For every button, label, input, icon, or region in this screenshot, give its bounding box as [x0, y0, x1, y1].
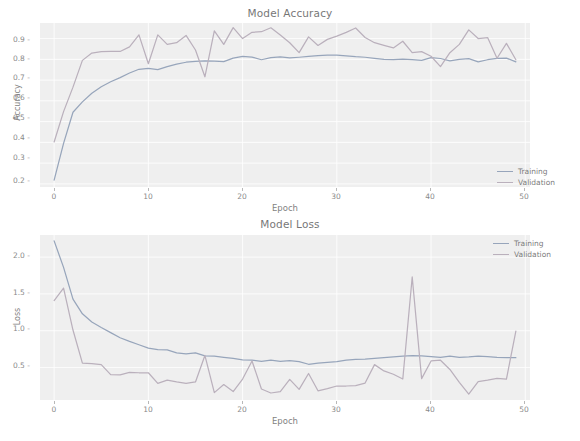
accuracy-xtick-3: 30: [325, 192, 347, 201]
accuracy-xtick-1: 10: [137, 192, 159, 201]
accuracy-ytick-5: 0.4 -: [4, 133, 30, 142]
loss-xtick-4: 40: [419, 405, 441, 414]
accuracy-subplot: Model Accuracy Accuracy 0.9 - 0.8 - 0.7 …: [0, 0, 580, 218]
loss-x-axis-label: Epoch: [40, 416, 530, 426]
accuracy-xtick-5: 50: [513, 192, 535, 201]
loss-ytick-0: 2.0 -: [4, 251, 30, 260]
validation-line-swatch-icon: [493, 254, 509, 255]
accuracy-legend-item-training[interactable]: Training: [497, 166, 555, 177]
accuracy-xtickmark-3: [336, 188, 337, 191]
loss-legend-training-label: Training: [514, 238, 544, 249]
loss-ytick-3: 0.5 -: [4, 361, 30, 370]
accuracy-xtickmark-5: [524, 188, 525, 191]
loss-xtickmark-0: [54, 401, 55, 404]
loss-xtickmark-5: [524, 401, 525, 404]
series-line-training: [54, 55, 516, 180]
training-history-figure: Model Accuracy Accuracy 0.9 - 0.8 - 0.7 …: [0, 0, 580, 441]
accuracy-xtick-4: 40: [419, 192, 441, 201]
accuracy-ytick-0: 0.9 -: [4, 35, 30, 44]
accuracy-xtick-0: 0: [43, 192, 65, 201]
loss-xtick-2: 20: [231, 405, 253, 414]
training-line-swatch-icon: [493, 243, 509, 244]
loss-plot-area: [40, 235, 530, 400]
loss-legend-validation-label: Validation: [514, 249, 551, 260]
loss-legend-item-validation[interactable]: Validation: [493, 249, 551, 260]
loss-xtick-1: 10: [137, 405, 159, 414]
accuracy-xtickmark-0: [54, 188, 55, 191]
loss-xtickmark-4: [430, 401, 431, 404]
accuracy-legend-item-validation[interactable]: Validation: [497, 177, 555, 188]
loss-legend-item-training[interactable]: Training: [493, 238, 551, 249]
series-line-training: [54, 241, 516, 364]
loss-plot-svg: [40, 235, 530, 400]
loss-xtickmark-3: [336, 401, 337, 404]
loss-legend: Training Validation: [493, 238, 551, 260]
accuracy-legend-training-label: Training: [518, 166, 548, 177]
training-line-swatch-icon: [497, 171, 513, 172]
accuracy-legend-validation-label: Validation: [518, 177, 555, 188]
loss-xtick-3: 30: [325, 405, 347, 414]
accuracy-plot-svg: [40, 23, 530, 187]
loss-xtickmark-1: [148, 401, 149, 404]
loss-ytick-1: 1.5 -: [4, 288, 30, 297]
loss-y-axis-label: Loss: [13, 292, 22, 342]
loss-xtickmark-2: [242, 401, 243, 404]
accuracy-ytick-6: 0.3 -: [4, 153, 30, 162]
accuracy-x-axis-label: Epoch: [40, 203, 530, 213]
accuracy-xtick-2: 20: [231, 192, 253, 201]
accuracy-ytick-1: 0.8 -: [4, 54, 30, 63]
validation-line-swatch-icon: [497, 182, 513, 183]
loss-xtick-5: 50: [513, 405, 535, 414]
loss-subplot: Model Loss Loss 2.0 - 1.5 - 1.0 - 0.5 - …: [0, 216, 580, 441]
accuracy-ytick-4: 0.5 -: [4, 113, 30, 122]
loss-chart-title: Model Loss: [0, 218, 580, 230]
accuracy-chart-title: Model Accuracy: [0, 7, 580, 19]
accuracy-xtickmark-1: [148, 188, 149, 191]
series-line-validation: [54, 277, 516, 394]
accuracy-plot-area: [40, 23, 530, 187]
accuracy-legend: Training Validation: [497, 166, 555, 188]
accuracy-ytick-3: 0.6 -: [4, 93, 30, 102]
loss-xtick-0: 0: [43, 405, 65, 414]
accuracy-ytick-2: 0.7 -: [4, 73, 30, 82]
series-line-validation: [54, 28, 516, 142]
accuracy-xtickmark-4: [430, 188, 431, 191]
loss-ytick-2: 1.0 -: [4, 324, 30, 333]
accuracy-xtickmark-2: [242, 188, 243, 191]
accuracy-ytick-7: 0.2 -: [4, 176, 30, 185]
